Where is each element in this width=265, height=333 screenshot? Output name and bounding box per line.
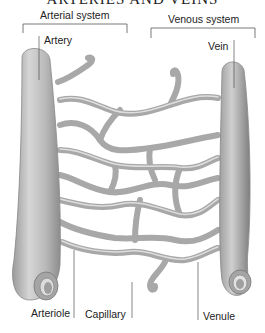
arterial-system-bracket — [23, 24, 127, 33]
vein-vessel — [220, 62, 251, 296]
label-arteriole: Arteriole — [31, 307, 70, 319]
label-arterial-system: Arterial system — [40, 9, 109, 21]
artery-vessel — [13, 48, 61, 300]
capillary-network — [58, 57, 218, 289]
label-capillary: Capillary — [85, 308, 126, 320]
label-vein: Vein — [208, 40, 228, 52]
label-venule: Venule — [203, 310, 235, 322]
venous-system-bracket — [151, 28, 255, 38]
label-venous-system: Venous system — [168, 13, 239, 25]
label-artery: Artery — [44, 34, 72, 46]
